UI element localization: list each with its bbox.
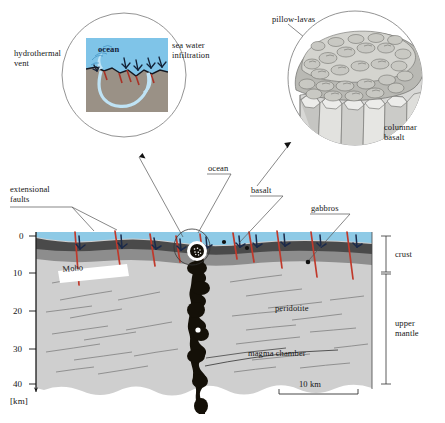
label-magma-chamber: magma chamber [248, 348, 306, 358]
axis-tick-30: 30 [13, 344, 22, 354]
label-hydrothermal-vent: hydrothermal vent [14, 48, 61, 68]
axis-tick-0: 0 [19, 231, 24, 241]
axis-tick-10: 10 [13, 268, 22, 278]
figure-root: hydrothermal vent ocean sea water infilt… [0, 0, 445, 423]
leader-hydro-inset [139, 157, 183, 237]
diagram-canvas [0, 0, 445, 423]
label-gabbros: gabbros [311, 203, 339, 213]
leader-pillow-arrow [284, 142, 291, 148]
leader-extensional-2 [72, 207, 117, 230]
label-sea-water-infiltration: sea water infiltration [172, 40, 210, 60]
vent-marker-core [190, 244, 204, 258]
right-brackets [381, 236, 391, 384]
hydrothermal-inset [62, 13, 186, 137]
scale-bar-label: 10 km [299, 379, 321, 389]
label-basalt: basalt [251, 185, 271, 195]
axis-tick-40: 40 [13, 379, 22, 389]
axis-unit-km: [km] [10, 396, 28, 406]
label-columnar-basalt: columnar basalt [384, 122, 417, 142]
label-extensional-faults: extensional faults [10, 184, 50, 204]
magma-void-dot [195, 327, 200, 332]
cross-section [36, 229, 372, 414]
axis-tick-20: 20 [13, 306, 22, 316]
label-upper-mantle: upper mantle [395, 318, 419, 338]
label-moho: Moho [62, 262, 84, 274]
label-ocean: ocean [208, 163, 228, 173]
label-peridotite: peridotite [275, 303, 309, 313]
label-crust: crust [395, 249, 412, 259]
leader-pillow-inset [257, 142, 291, 186]
leader-hydro-arrow [139, 153, 146, 159]
leader-ocean [198, 174, 231, 233]
label-inset-ocean: ocean [98, 44, 119, 54]
leader-extensional [10, 207, 94, 231]
label-pillow-lavas: pillow-lavas [272, 14, 315, 24]
pillow-blobs [299, 34, 413, 102]
